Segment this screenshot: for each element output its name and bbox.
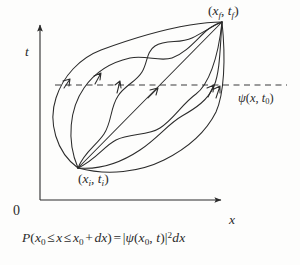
probability-formula: P(x0≤x≤x0+dx)=|ψ(x0, t)|2dx bbox=[22, 231, 185, 247]
final-point-label: (xf, tf) bbox=[208, 4, 239, 20]
psi-close-paren: ) bbox=[269, 91, 273, 105]
direction-arrow-3 bbox=[115, 81, 121, 93]
path-outer-lower-right bbox=[78, 22, 224, 172]
formula-le-2: ≤ bbox=[62, 230, 73, 245]
formula-x0b-sub: 0 bbox=[79, 237, 84, 247]
initial-close-paren: ) bbox=[104, 171, 109, 186]
formula-le-1: ≤ bbox=[46, 230, 57, 245]
path-straight-classical bbox=[78, 22, 222, 168]
initial-comma: , bbox=[91, 171, 98, 186]
initial-point-label: (xi, ti) bbox=[78, 172, 109, 188]
final-close-paren: ) bbox=[234, 3, 239, 18]
direction-arrow-6 bbox=[214, 86, 220, 98]
final-comma: , bbox=[221, 3, 228, 18]
formula-plus: + bbox=[84, 230, 95, 245]
direction-arrow-4 bbox=[148, 88, 158, 98]
direction-arrow-1 bbox=[63, 79, 70, 88]
formula-equals: = bbox=[112, 230, 123, 245]
wavefunction-label: ψ(x, t0) bbox=[238, 92, 274, 106]
figure-canvas bbox=[0, 0, 300, 265]
formula-dx-tail: dx bbox=[172, 230, 185, 245]
formula-dx: dx bbox=[94, 230, 107, 245]
path-integral-figure: (xf, tf) (xi, ti) ψ(x, t0) t x 0 P(x0≤x≤… bbox=[0, 0, 300, 265]
origin-label: 0 bbox=[13, 204, 20, 218]
paths-group bbox=[53, 22, 224, 172]
t-axis-label: t bbox=[25, 45, 29, 59]
x-axis-label: x bbox=[229, 213, 235, 227]
psi-symbol: ψ bbox=[238, 91, 246, 105]
formula-psi: ψ bbox=[125, 230, 134, 245]
path-upper-left-loop bbox=[53, 22, 222, 168]
